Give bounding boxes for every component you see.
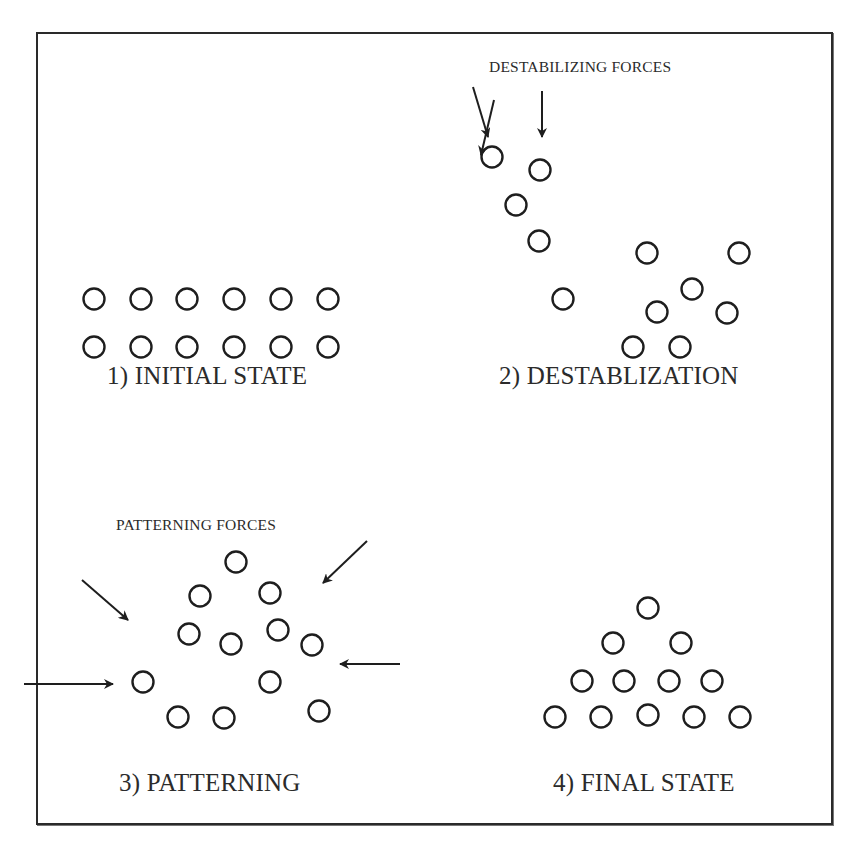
particle-circle	[260, 672, 281, 693]
particle-circle	[302, 635, 323, 656]
particle-circle	[684, 707, 705, 728]
particle-circle	[271, 337, 292, 358]
particle-circle	[702, 671, 723, 692]
particle-circle	[614, 671, 635, 692]
particle-circle	[529, 231, 550, 252]
particle-circle	[591, 707, 612, 728]
particle-circle	[271, 289, 292, 310]
particle-circle	[506, 195, 527, 216]
particle-circle	[131, 337, 152, 358]
particle-circle	[268, 620, 289, 641]
particle-circle	[168, 707, 189, 728]
particle-circle	[637, 243, 658, 264]
patterning-forces-label: PATTERNING FORCES	[116, 516, 276, 534]
force-arrow-icon	[82, 580, 128, 620]
panel-final	[545, 598, 751, 728]
panel-initial	[84, 289, 339, 358]
particle-circle	[224, 337, 245, 358]
particle-circle	[530, 160, 551, 181]
particle-circle	[730, 707, 751, 728]
particle-circle	[482, 147, 503, 168]
panel-title-final-state: 4) FINAL STATE	[553, 769, 735, 797]
destabilizing-forces-label: DESTABILIZING FORCES	[489, 58, 671, 76]
particle-circle	[260, 583, 281, 604]
particle-circle	[553, 289, 574, 310]
particle-circle	[131, 289, 152, 310]
particle-circle	[638, 598, 659, 619]
particle-circle	[309, 701, 330, 722]
particle-circle	[133, 672, 154, 693]
particle-circle	[647, 302, 668, 323]
panel-title-patterning: 3) PATTERNING	[119, 769, 301, 797]
particle-circle	[545, 707, 566, 728]
panel-patterning	[24, 541, 400, 729]
particle-circle	[671, 633, 692, 654]
particle-circle	[729, 243, 750, 264]
particle-circle	[670, 337, 691, 358]
particle-circle	[603, 633, 624, 654]
particle-circle	[84, 337, 105, 358]
panel-destabilization	[473, 87, 750, 358]
particle-circle	[177, 337, 198, 358]
panel-title-initial-state: 1) INITIAL STATE	[107, 362, 307, 390]
force-arrow-icon	[473, 87, 488, 137]
particle-circle	[84, 289, 105, 310]
particle-circle	[623, 337, 644, 358]
particle-circle	[190, 586, 211, 607]
particle-circle	[717, 303, 738, 324]
particle-circle	[572, 671, 593, 692]
particle-circle	[638, 705, 659, 726]
particle-circle	[318, 337, 339, 358]
particle-circle	[659, 671, 680, 692]
particle-circle	[177, 289, 198, 310]
particle-circle	[224, 289, 245, 310]
particle-circle	[226, 552, 247, 573]
particle-circle	[179, 624, 200, 645]
particle-circle	[221, 634, 242, 655]
diagram-shapes	[0, 0, 863, 859]
particle-circle	[318, 289, 339, 310]
particle-circle	[682, 279, 703, 300]
particle-circle	[214, 708, 235, 729]
panel-title-destabilization: 2) DESTABLIZATION	[499, 362, 739, 390]
force-arrow-icon	[323, 541, 367, 583]
self-organization-diagram: 1) INITIAL STATE 2) DESTABLIZATION DESTA…	[0, 0, 863, 859]
